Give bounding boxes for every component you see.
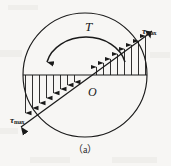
figure-caption: （a） [73,145,97,155]
tau-max-label-bottom-left: τmax [10,116,24,125]
center-label: O [88,86,97,98]
torsion-shear-stress-figure: T O τmax τmax （a） [0,0,171,166]
torque-label: T [85,20,92,33]
tau-subscript: max [146,30,156,36]
stress-distribution-line [21,33,150,127]
tau-max-label-top-right: τmax [142,27,156,36]
tau-subscript: max [14,119,24,125]
torque-arc-arrow [47,37,125,62]
